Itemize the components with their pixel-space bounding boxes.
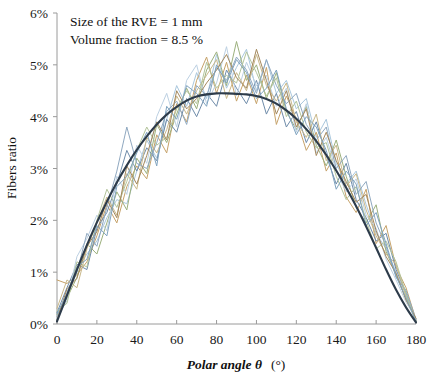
data-series-group — [57, 42, 416, 322]
series-line — [57, 57, 416, 320]
x-tick-label: 40 — [130, 332, 144, 347]
x-tick-label: 160 — [366, 332, 387, 347]
x-axis-title: Polar angle θ (°) — [187, 355, 286, 372]
x-tick-label: 20 — [90, 332, 104, 347]
y-tick-label: 3% — [30, 162, 48, 177]
series-line — [57, 49, 416, 321]
x-tick-label: 180 — [406, 332, 427, 347]
axis-tick-marks — [53, 13, 416, 324]
y-tick-label: 2% — [30, 213, 48, 228]
x-tick-label: 80 — [210, 332, 224, 347]
y-tick-label: 0% — [30, 317, 48, 332]
x-tick-label: 120 — [286, 332, 307, 347]
x-tick-label: 60 — [170, 332, 184, 347]
x-tick-label: 100 — [246, 332, 267, 347]
y-axis-title: Fibers ratio — [4, 137, 19, 199]
x-axis-title-symbol: Polar angle θ — [187, 357, 262, 372]
y-tick-label: 5% — [30, 58, 48, 73]
x-axis-title-unit: (°) — [271, 357, 285, 372]
series-line — [57, 49, 416, 320]
y-tick-label: 1% — [30, 265, 48, 280]
figure-container: 0%1%2%3%4%5%6% 020406080100120140160180 … — [0, 0, 435, 377]
chart-canvas: 0%1%2%3%4%5%6% 020406080100120140160180 … — [0, 0, 435, 377]
y-tick-label: 4% — [30, 110, 48, 125]
y-axis-tick-labels: 0%1%2%3%4%5%6% — [30, 6, 48, 332]
annotation-volume-fraction: Volume fraction = 8.5 % — [70, 32, 203, 47]
annotation-rve-size: Size of the RVE = 1 mm — [70, 14, 203, 29]
x-tick-label: 140 — [326, 332, 347, 347]
y-tick-label: 6% — [30, 6, 48, 21]
x-tick-label: 0 — [54, 332, 61, 347]
x-axis-tick-labels: 020406080100120140160180 — [54, 332, 427, 347]
